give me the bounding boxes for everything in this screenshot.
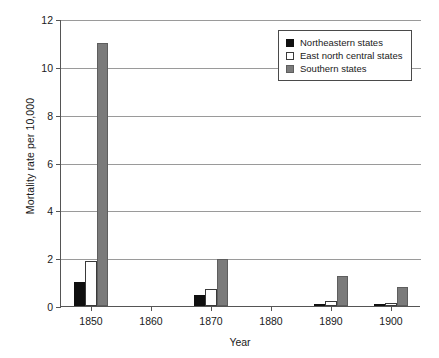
legend-swatch-icon bbox=[286, 39, 294, 47]
bar bbox=[97, 43, 109, 306]
x-axis-tick bbox=[391, 306, 392, 311]
y-axis-tick bbox=[56, 259, 61, 260]
chart-legend: Northeastern statesEast north central st… bbox=[278, 30, 412, 81]
legend-item: Southern states bbox=[286, 62, 402, 75]
bar bbox=[194, 295, 206, 306]
y-gridline bbox=[61, 259, 421, 260]
y-axis-tick-label: 4 bbox=[13, 205, 53, 217]
bar bbox=[337, 276, 349, 306]
y-gridline bbox=[61, 164, 421, 165]
legend-item-label: Southern states bbox=[300, 63, 367, 74]
y-gridline bbox=[61, 116, 421, 117]
y-axis-tick bbox=[56, 164, 61, 165]
bar bbox=[325, 301, 337, 306]
legend-item-label: Northeastern states bbox=[300, 37, 383, 48]
y-axis-title: Mortality rate per 10,000 bbox=[24, 46, 36, 266]
x-axis-tick-label: 1870 bbox=[199, 315, 222, 327]
y-axis-tick-label: 10 bbox=[13, 62, 53, 74]
bar bbox=[74, 282, 86, 306]
y-gridline bbox=[61, 20, 421, 21]
x-axis-tick-label: 1900 bbox=[379, 315, 402, 327]
y-axis-tick bbox=[56, 116, 61, 117]
bar bbox=[397, 287, 409, 306]
x-axis-title: Year bbox=[60, 336, 420, 348]
y-axis-tick-label: 8 bbox=[13, 110, 53, 122]
bar bbox=[385, 303, 397, 306]
y-axis-tick bbox=[56, 211, 61, 212]
x-axis-tick-label: 1890 bbox=[319, 315, 342, 327]
y-axis-tick-label: 12 bbox=[13, 14, 53, 26]
bar bbox=[374, 304, 386, 306]
y-axis-tick-label: 0 bbox=[13, 301, 53, 313]
legend-item: East north central states bbox=[286, 49, 402, 62]
x-axis-tick-label: 1880 bbox=[259, 315, 282, 327]
y-axis-tick-label: 2 bbox=[13, 253, 53, 265]
x-axis-tick-label: 1850 bbox=[79, 315, 102, 327]
legend-item: Northeastern states bbox=[286, 36, 402, 49]
bar bbox=[217, 259, 229, 306]
y-axis-tick bbox=[56, 20, 61, 21]
x-axis-tick bbox=[91, 306, 92, 311]
x-axis-tick bbox=[211, 306, 212, 311]
legend-item-label: East north central states bbox=[300, 50, 402, 61]
y-axis-tick bbox=[56, 307, 61, 308]
y-axis-tick bbox=[56, 68, 61, 69]
x-axis-tick-label: 1860 bbox=[139, 315, 162, 327]
y-gridline bbox=[61, 211, 421, 212]
y-axis-tick-label: 6 bbox=[13, 158, 53, 170]
legend-swatch-icon bbox=[286, 65, 294, 73]
x-axis-tick bbox=[331, 306, 332, 311]
legend-swatch-icon bbox=[286, 52, 294, 60]
bar bbox=[314, 304, 326, 306]
bar bbox=[205, 289, 217, 306]
bar bbox=[85, 261, 97, 306]
x-axis-tick bbox=[271, 306, 272, 311]
mortality-bar-chart: Mortality rate per 10,000 02468101218501… bbox=[0, 0, 439, 358]
x-axis-tick bbox=[151, 306, 152, 311]
